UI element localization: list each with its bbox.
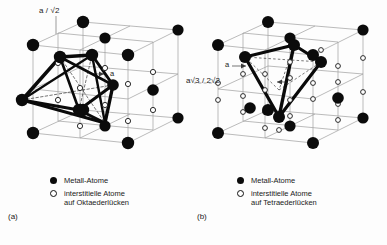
open-circle-icon xyxy=(232,189,248,197)
open-circle-icon xyxy=(45,189,61,197)
legend-octahedral: Metall-Atome interstitielle Atome auf Ok… xyxy=(45,176,129,211)
panel-tag-a: (a) xyxy=(8,212,18,221)
legend-label-interstitial-line2: auf Tetraederlücken xyxy=(251,198,317,207)
panel-tetrahedral: a√3 / 2√2 a Metall-Atome interstitielle … xyxy=(194,0,387,245)
interstitial-atoms-tetrahedral xyxy=(216,48,366,133)
dimension-label-a-sqrt2: a / √2 xyxy=(39,6,60,15)
dimension-label-cell-edge-b: a xyxy=(225,60,229,69)
legend-row-interstitial: interstitielle Atome auf Tetraederlücken xyxy=(232,189,317,208)
legend-label-metal: Metall-Atome xyxy=(248,176,295,186)
figure-root: a / √2 a Metall-Atome interstitielle Ato… xyxy=(0,0,387,245)
legend-row-metal: Metall-Atome xyxy=(45,176,129,186)
fcc-octahedral-lattice xyxy=(0,0,193,180)
panel-tag-b: (b) xyxy=(197,212,207,221)
legend-row-metal: Metall-Atome xyxy=(232,176,317,186)
legend-label-interstitial-line1: interstitielle Atome xyxy=(251,189,312,198)
legend-tetrahedral: Metall-Atome interstitielle Atome auf Te… xyxy=(232,176,317,211)
fcc-tetrahedral-lattice xyxy=(194,0,387,180)
dimension-label-a-sqrt3-2sqrt2: a√3 / 2√2 xyxy=(186,76,220,85)
legend-label-interstitial-line2: auf Oktaederlücken xyxy=(64,198,129,207)
dimension-label-cell-edge-a: a xyxy=(110,69,114,78)
legend-label-interstitial-line1: interstitielle Atome xyxy=(64,189,125,198)
legend-row-interstitial: interstitielle Atome auf Oktaederlücken xyxy=(45,189,129,208)
panel-octahedral: a / √2 a Metall-Atome interstitielle Ato… xyxy=(0,0,193,245)
filled-circle-icon xyxy=(232,176,248,184)
legend-label-metal: Metall-Atome xyxy=(61,176,108,186)
filled-circle-icon xyxy=(45,176,61,184)
